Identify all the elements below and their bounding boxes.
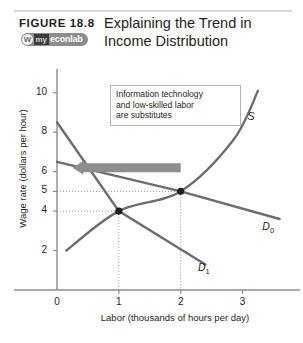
x-tick-label: 2 <box>174 296 188 307</box>
y-tick-label: 4 <box>31 204 47 215</box>
header-divider <box>14 10 292 12</box>
myeconlab-prefix: my <box>34 34 49 45</box>
x-tick-label: 3 <box>236 296 250 307</box>
annotation-line-2: and low-skilled labor <box>116 100 235 111</box>
curve-label-d0: D0 <box>262 220 274 235</box>
x-tick-label: 1 <box>112 296 126 307</box>
myeconlab-logo[interactable]: W my econlab <box>21 33 88 46</box>
figure-title-line-2: Income Distribution <box>104 32 294 50</box>
figure-title: Explaining the Trend in Income Distribut… <box>104 14 294 50</box>
y-tick-label: 5 <box>31 184 47 195</box>
curve-label-d1: D1 <box>198 261 210 276</box>
y-tick-label: 2 <box>31 244 47 255</box>
x-axis-title: Labor (thousands of hours per day) <box>57 312 293 323</box>
curve-label-s: S <box>248 110 255 122</box>
y-tick-label: 6 <box>31 165 47 176</box>
figure-number: FIGURE 18.8 <box>19 17 95 29</box>
annotation-box: Information technology and low-skilled l… <box>110 85 241 126</box>
figure-title-line-1: Explaining the Trend in <box>104 14 294 32</box>
annotation-line-1: Information technology <box>116 89 235 100</box>
figure-panel: FIGURE 18.8 Explaining the Trend in Inco… <box>0 0 303 343</box>
annotation-line-3: are substitutes <box>116 110 235 121</box>
x-tick-label: 0 <box>50 296 64 307</box>
y-tick-label: 10 <box>31 86 47 97</box>
myeconlab-name: econlab <box>49 34 86 45</box>
chart-plot-area: Wage rate (dollars per hour) Labor (thou… <box>0 55 303 305</box>
y-tick-label: 8 <box>31 125 47 136</box>
myeconlab-mark-icon: W <box>22 34 33 45</box>
